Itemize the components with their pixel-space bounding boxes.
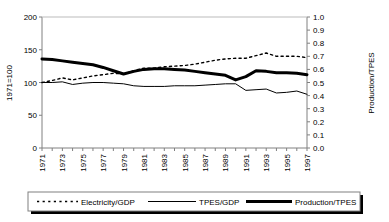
x-tick-label: 1991 (242, 153, 251, 171)
x-tick-label: 1983 (160, 153, 169, 171)
right-tick-label: 0.6 (313, 65, 325, 74)
chart-container: 050100150200 0.00.10.20.30.40.50.60.70.8… (0, 0, 389, 222)
legend-label-production-tpes: Production/TPES (295, 198, 356, 207)
x-tick-label: 1975 (79, 153, 88, 171)
left-tick-label: 150 (24, 46, 38, 55)
right-tick-label: 0.7 (313, 52, 325, 61)
legend-label-tpes-gdp: TPES/GDP (199, 198, 239, 207)
right-tick-label: 0.8 (313, 39, 325, 48)
x-tick-label: 1987 (201, 153, 210, 171)
right-tick-label: 0.3 (313, 105, 325, 114)
x-tick-label: 1977 (99, 153, 108, 171)
legend-label-electricity-gdp: Electricity/GDP (81, 198, 135, 207)
x-tick-label: 1989 (221, 153, 230, 171)
x-tick-label: 1979 (120, 153, 129, 171)
legend: Electricity/GDP TPES/GDP Production/TPES (28, 192, 363, 214)
left-tick-label: 100 (24, 79, 38, 88)
chart-background (0, 0, 389, 222)
line-chart: 050100150200 0.00.10.20.30.40.50.60.70.8… (0, 0, 389, 222)
x-tick-label: 1981 (140, 153, 149, 171)
left-tick-label: 0 (33, 144, 38, 153)
x-tick-label: 1985 (181, 153, 190, 171)
right-tick-label: 1.0 (313, 13, 325, 22)
right-tick-label: 0.0 (313, 144, 325, 153)
right-tick-label: 0.9 (313, 26, 325, 35)
left-tick-label: 50 (28, 111, 37, 120)
x-tick-label: 1995 (283, 153, 292, 171)
x-tick-label: 1971 (38, 153, 47, 171)
right-tick-label: 0.1 (313, 131, 325, 140)
x-tick-label: 1973 (58, 153, 67, 171)
x-tick-label: 1997 (303, 153, 312, 171)
x-tick-label: 1993 (262, 153, 271, 171)
right-tick-label: 0.5 (313, 79, 325, 88)
right-tick-label: 0.2 (313, 118, 325, 127)
right-tick-label: 0.4 (313, 92, 325, 101)
y-axis-label-right: Production/TPES (367, 52, 376, 113)
left-tick-label: 200 (24, 13, 38, 22)
y-axis-label-left: 1971=100 (5, 65, 14, 101)
